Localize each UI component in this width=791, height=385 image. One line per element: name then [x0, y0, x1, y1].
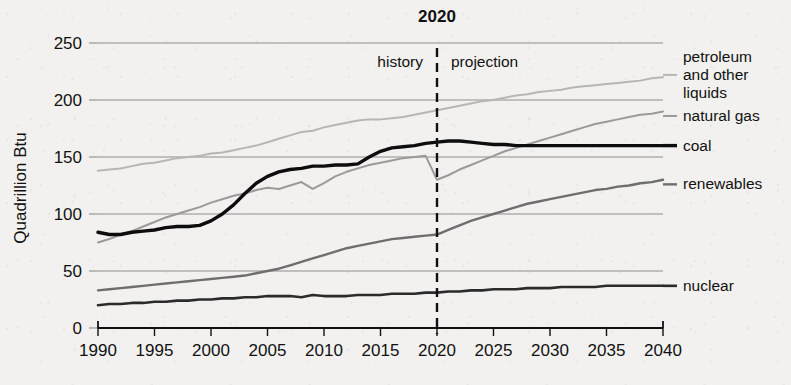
- x-tick-label: 2035: [588, 341, 626, 360]
- legend-label-petroleum-and-other-liquids: petroleumand otherliquids: [683, 48, 752, 101]
- legend-label-natural-gas: natural gas: [683, 107, 760, 124]
- history-label: history: [377, 53, 423, 70]
- x-tick-label: 2040: [644, 341, 682, 360]
- x-tick-labels-group: 1990199520002005201020152020202520302035…: [79, 341, 682, 360]
- projection-label: projection: [451, 53, 518, 70]
- divider-year-label: 2020: [418, 7, 456, 26]
- series-line-natural-gas: [98, 111, 663, 242]
- x-tick-label: 2010: [305, 341, 343, 360]
- x-axis-line-group: [98, 321, 663, 328]
- x-tick-label: 1995: [136, 341, 174, 360]
- x-tick-label: 2030: [531, 341, 569, 360]
- y-tick-labels-group: 050100150200250: [54, 34, 82, 338]
- series-line-renewables: [98, 180, 663, 291]
- legend-label-line: renewables: [683, 175, 763, 192]
- series-line-coal: [98, 141, 663, 234]
- x-tick-marks-group: [98, 328, 663, 336]
- x-tick-label: 2015: [362, 341, 400, 360]
- y-tick-label: 200: [54, 91, 82, 110]
- legend-label-line: petroleum: [683, 48, 752, 65]
- series-legend-group: petroleumand otherliquidsnatural gascoal…: [663, 48, 763, 294]
- y-tick-label: 0: [73, 319, 82, 338]
- legend-label-line: nuclear: [683, 277, 734, 294]
- legend-label-coal: coal: [683, 137, 711, 154]
- history-projection-divider-group: 2020 history projection: [377, 7, 518, 334]
- legend-label-line: and other: [683, 66, 749, 83]
- y-tick-label: 150: [54, 148, 82, 167]
- y-axis-title: Quadrillion Btu: [11, 132, 30, 244]
- x-tick-label: 2020: [418, 341, 456, 360]
- x-tick-label: 2005: [249, 341, 287, 360]
- series-line-nuclear: [98, 286, 663, 305]
- legend-label-line: natural gas: [683, 107, 760, 124]
- legend-label-nuclear: nuclear: [683, 277, 734, 294]
- x-tick-label: 2000: [192, 341, 230, 360]
- y-tick-marks-group: [89, 43, 98, 328]
- x-tick-label: 1990: [79, 341, 117, 360]
- legend-label-line: liquids: [683, 84, 727, 101]
- energy-consumption-line-chart: 050100150200250 199019952000200520102015…: [0, 0, 791, 385]
- y-tick-label: 50: [63, 262, 82, 281]
- chart-canvas: 050100150200250 199019952000200520102015…: [0, 0, 791, 385]
- x-tick-label: 2025: [475, 341, 513, 360]
- y-tick-label: 100: [54, 205, 82, 224]
- y-tick-label: 250: [54, 34, 82, 53]
- legend-label-renewables: renewables: [683, 175, 763, 192]
- legend-label-line: coal: [683, 137, 711, 154]
